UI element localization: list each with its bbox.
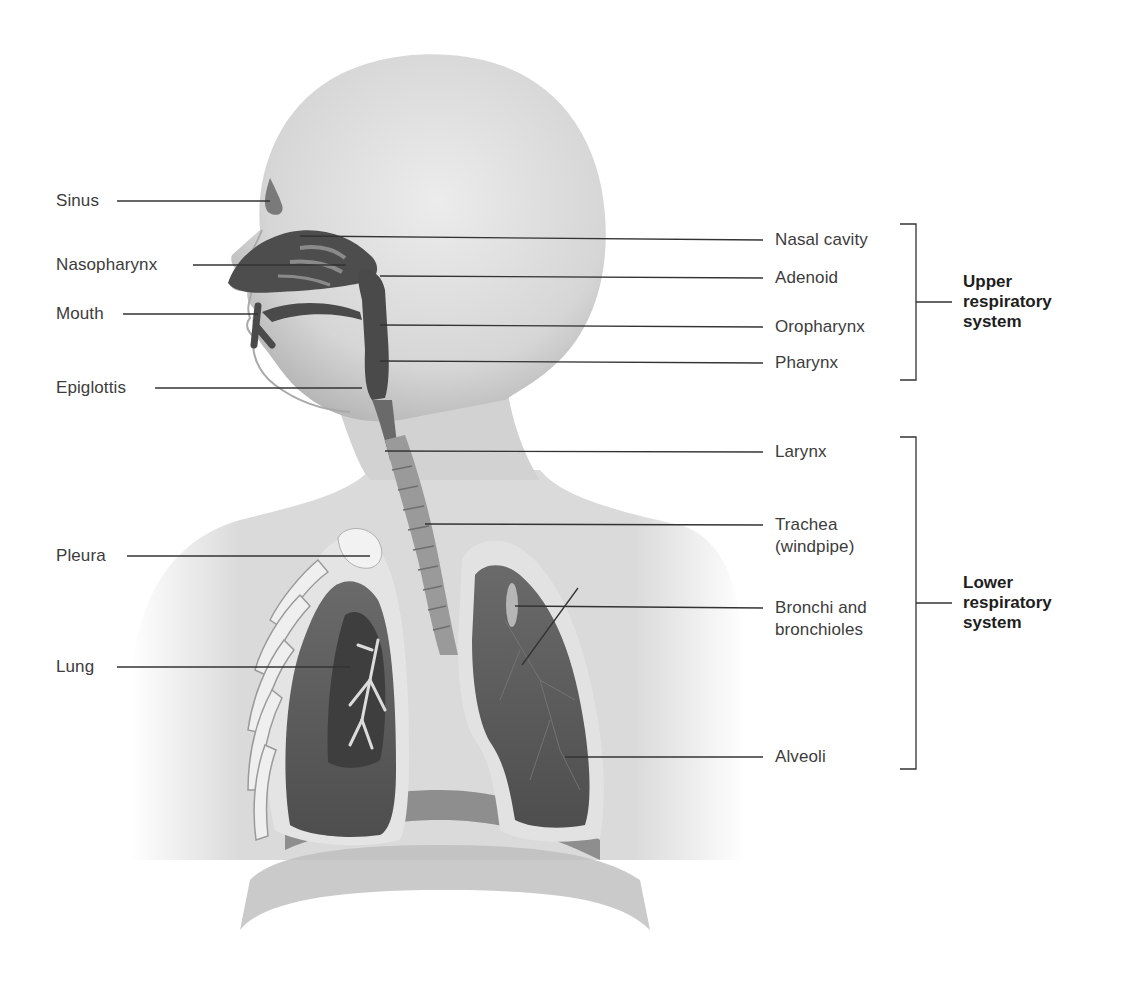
respiratory-system-diagram: Sinus Nasopharynx Mouth Epiglottis Pleur… bbox=[0, 0, 1127, 982]
label-pleura: Pleura bbox=[56, 545, 106, 567]
label-sinus: Sinus bbox=[56, 190, 99, 212]
leader-line-oropharynx bbox=[380, 325, 763, 327]
leader-lines bbox=[0, 0, 1127, 982]
group-label-upper: Upper respiratory system bbox=[963, 272, 1083, 332]
leader-line-adenoid bbox=[380, 276, 763, 278]
label-adenoid: Adenoid bbox=[775, 267, 838, 289]
leader-line-trachea bbox=[425, 524, 763, 525]
leader-line-bronchi bbox=[515, 606, 763, 608]
label-larynx: Larynx bbox=[775, 441, 827, 463]
label-trachea: Trachea (windpipe) bbox=[775, 514, 885, 558]
label-bronchi: Bronchi and bronchioles bbox=[775, 597, 895, 641]
leader-line-nasal-cavity bbox=[300, 236, 763, 240]
label-nasopharynx: Nasopharynx bbox=[56, 254, 157, 276]
label-mouth: Mouth bbox=[56, 303, 104, 325]
label-alveoli: Alveoli bbox=[775, 746, 826, 768]
label-lung: Lung bbox=[56, 656, 94, 678]
group-label-lower: Lower respiratory system bbox=[963, 573, 1083, 633]
label-oropharynx: Oropharynx bbox=[775, 316, 865, 338]
leader-line-bronchioles bbox=[522, 588, 578, 665]
label-nasal-cavity: Nasal cavity bbox=[775, 229, 868, 251]
leader-line-larynx bbox=[385, 451, 763, 452]
label-epiglottis: Epiglottis bbox=[56, 377, 126, 399]
lower-bracket bbox=[900, 437, 916, 769]
upper-bracket bbox=[900, 224, 916, 380]
leader-line-pharynx bbox=[380, 361, 763, 363]
label-pharynx: Pharynx bbox=[775, 352, 838, 374]
